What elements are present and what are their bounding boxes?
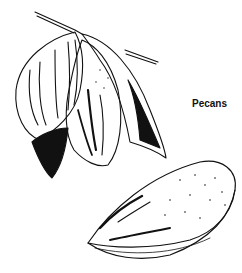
single-pecan-nut xyxy=(88,161,235,258)
left-husk xyxy=(16,32,83,140)
pecans-label: Pecans xyxy=(192,98,227,109)
stipple xyxy=(95,69,226,219)
twig xyxy=(35,12,158,64)
pecans-illustration xyxy=(0,0,242,273)
shadow-wedge xyxy=(32,128,68,178)
